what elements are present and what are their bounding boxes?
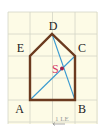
label-e: E	[17, 41, 24, 55]
diagram-canvas: D E C A B S 1 LE	[0, 0, 105, 135]
point-s-dot	[60, 67, 64, 71]
label-b: B	[78, 102, 86, 116]
pentagon-diagram: D E C A B S 1 LE	[0, 0, 105, 135]
scale-label: 1 LE	[55, 115, 69, 123]
label-a: A	[15, 102, 24, 116]
label-d: D	[49, 19, 58, 33]
label-s: S	[52, 62, 59, 76]
label-c: C	[78, 41, 86, 55]
